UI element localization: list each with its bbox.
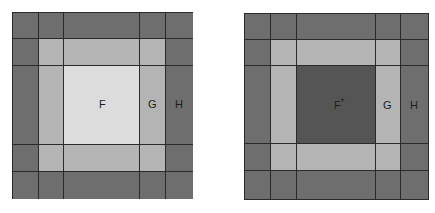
outer-cell — [297, 14, 376, 40]
outer-cell — [64, 172, 140, 199]
outer-cell — [166, 145, 193, 172]
label-f: F — [99, 98, 106, 110]
ring-cell — [64, 145, 140, 172]
ring-cell — [39, 145, 64, 172]
outer-cell — [271, 171, 297, 199]
outer-cell — [13, 172, 39, 199]
ring-cell — [271, 144, 297, 171]
ring-cell — [297, 40, 376, 66]
ring-cell — [297, 144, 376, 171]
label-f: F — [334, 99, 341, 111]
ring-cell — [376, 40, 401, 66]
ring-cell-g: G — [140, 66, 166, 145]
right-grid-panel: F* G H — [244, 13, 429, 200]
ring-cell — [140, 145, 166, 172]
label-f-star: F* — [334, 99, 344, 111]
outer-cell — [245, 171, 271, 199]
outer-cell — [245, 144, 271, 171]
label-g: G — [148, 98, 157, 110]
ring-cell — [39, 39, 64, 66]
outer-cell — [401, 144, 428, 171]
asterisk-superscript: * — [341, 96, 345, 106]
outer-cell — [13, 13, 39, 39]
outer-cell — [140, 172, 166, 199]
outer-cell — [401, 14, 428, 40]
ring-cell-g: G — [376, 66, 401, 144]
outer-cell — [376, 14, 401, 40]
label-g: G — [383, 99, 392, 111]
outer-cell — [166, 39, 193, 66]
label-h: H — [410, 99, 418, 111]
center-cell-f: F — [64, 66, 140, 145]
label-h: H — [175, 98, 183, 110]
outer-cell — [245, 66, 271, 144]
outer-cell — [166, 172, 193, 199]
outer-cell — [39, 172, 64, 199]
ring-cell — [271, 40, 297, 66]
outer-cell — [13, 145, 39, 172]
left-grid-panel: F G H — [12, 12, 193, 199]
ring-cell — [376, 144, 401, 171]
outer-cell — [13, 66, 39, 145]
ring-cell — [271, 66, 297, 144]
outer-cell — [140, 13, 166, 39]
outer-cell — [376, 171, 401, 199]
center-cell-f-star: F* — [297, 66, 376, 144]
ring-cell — [64, 39, 140, 66]
outer-cell — [245, 14, 271, 40]
outer-cell — [39, 13, 64, 39]
outer-cell — [297, 171, 376, 199]
ring-cell — [140, 39, 166, 66]
outer-cell — [245, 40, 271, 66]
ring-cell — [39, 66, 64, 145]
outer-cell — [401, 171, 428, 199]
outer-cell-h: H — [166, 66, 193, 145]
outer-cell-h: H — [401, 66, 428, 144]
outer-cell — [271, 14, 297, 40]
outer-cell — [166, 13, 193, 39]
outer-cell — [401, 40, 428, 66]
outer-cell — [64, 13, 140, 39]
outer-cell — [13, 39, 39, 66]
